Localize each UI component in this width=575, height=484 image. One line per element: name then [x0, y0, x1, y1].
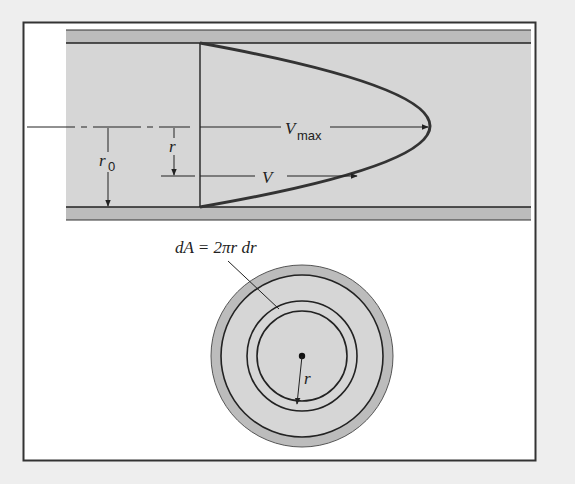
pipe-top-wall — [66, 30, 531, 43]
pipe-flow-diagram: V max V r r 0 r dA = 2πr dr — [0, 0, 575, 484]
r0-label: r — [99, 151, 106, 170]
r-label: r — [169, 137, 176, 156]
pipe-fluid-region — [66, 43, 531, 207]
pipe-longitudinal-view: V max V r r 0 — [27, 30, 531, 220]
r0-subscript: 0 — [108, 159, 115, 174]
area-equation: dA = 2πr dr — [175, 238, 257, 257]
vmax-subscript: max — [297, 128, 322, 143]
radius-label: r — [304, 369, 311, 388]
pipe-bottom-wall — [66, 207, 531, 220]
